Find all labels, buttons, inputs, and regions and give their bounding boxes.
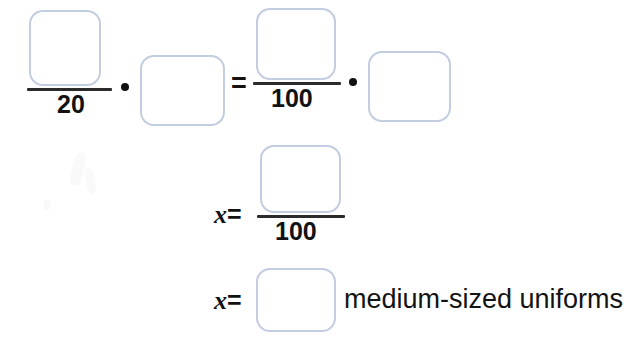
line3-unit-label: medium-sized uniforms: [344, 286, 623, 313]
scan-artifact-2: [84, 167, 97, 194]
scan-artifact-3: [44, 200, 50, 210]
line1-factor-2-box[interactable]: [368, 51, 451, 122]
line1-right-numerator-box[interactable]: [256, 8, 336, 80]
line2-numerator-box[interactable]: [260, 145, 341, 213]
line2-variable: x: [214, 200, 227, 229]
line1-left-numerator-box[interactable]: [29, 10, 101, 86]
line1-right-denominator: 100: [271, 86, 313, 111]
line2-equals-sign: =: [227, 200, 242, 228]
line2-denominator: 100: [275, 219, 317, 244]
line3-variable: x: [214, 286, 227, 315]
line1-factor-1-box[interactable]: [140, 55, 225, 126]
line3-answer-box[interactable]: [256, 268, 336, 332]
multiply-dot-icon-2: [349, 78, 357, 86]
line3-equals-sign: =: [227, 286, 242, 314]
multiply-dot-icon-1: [121, 83, 129, 91]
line3-variable-prefix: x=: [214, 288, 242, 314]
line1-left-denominator: 20: [57, 92, 85, 117]
line2-variable-prefix: x=: [214, 202, 242, 228]
line1-equals-sign: =: [231, 70, 247, 97]
